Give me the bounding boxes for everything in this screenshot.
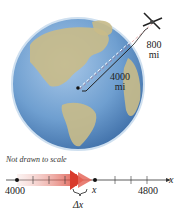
altitude-unit: mi	[141, 50, 167, 60]
scale-note: Not drawn to scale	[6, 155, 67, 164]
point-x-label: x	[92, 184, 96, 195]
number-line-start-label: 4000	[5, 185, 25, 196]
axis-x-label: x	[169, 174, 173, 185]
delta-x-label: Δx	[73, 199, 83, 210]
number-line-end-label: 4800	[138, 185, 158, 196]
satellite-icon	[143, 13, 162, 29]
altitude-label: 800 mi	[141, 40, 167, 60]
radius-label: 4000 mi	[106, 72, 134, 92]
earth-center-dot	[76, 86, 80, 90]
radius-unit: mi	[106, 82, 134, 92]
